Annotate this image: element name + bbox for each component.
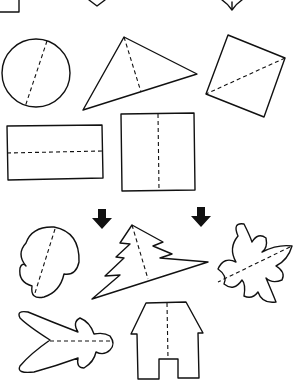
mushroom-blob-shape (20, 227, 79, 298)
partial-diamond-top-center (89, 0, 105, 6)
square-shape (121, 113, 195, 191)
worksheet-canvas (0, 0, 297, 390)
down-arrow-icon (92, 209, 112, 229)
circle-shape (2, 39, 70, 107)
partial-heart-top-right (222, 0, 242, 10)
flower-shape (218, 224, 292, 303)
rectangle-shape (7, 125, 103, 180)
partial-square-top-left (0, 0, 19, 12)
rotated-square-shape (206, 35, 285, 117)
triangle-shape (83, 37, 197, 110)
fir-tree-shape (92, 225, 208, 299)
down-arrow-icon (191, 207, 211, 227)
house-shape (131, 302, 203, 379)
leaf-sprig-shape (19, 312, 113, 373)
